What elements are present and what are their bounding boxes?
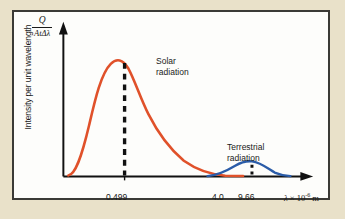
x-tick-label-crossover: 4.0 — [212, 192, 224, 202]
x-axis-unit: m — [312, 193, 319, 203]
x-axis-label: λ × 10-6 m — [284, 192, 319, 203]
x-axis-base: 10 — [297, 193, 306, 203]
x-tick-label-terrestrial-peak: 9.66 — [238, 192, 255, 202]
solar-radiation-curve — [68, 60, 243, 176]
terrestrial-annotation-line1: Terrestrial — [227, 142, 264, 153]
x-axis-exponent: -6 — [305, 192, 310, 198]
solar-annotation-line2: radiation — [156, 67, 189, 78]
x-axis-symbol: λ — [284, 193, 288, 203]
y-axis-arrowhead — [59, 22, 68, 35]
terrestrial-radiation-curve — [208, 161, 291, 176]
x-tick-label-solar-peak: 0.499 — [106, 192, 127, 202]
chart-canvas — [14, 12, 328, 198]
terrestrial-annotation-line2: radiation — [227, 153, 264, 164]
solar-annotation-line1: Solar — [156, 56, 189, 67]
x-axis-arrowhead — [300, 172, 313, 181]
figure-panel: Q AtΔλ Intensity per unit wavelength Sol… — [12, 10, 330, 200]
solar-radiation-annotation: Solar radiation — [156, 56, 189, 77]
x-axis-times: × — [290, 193, 295, 203]
terrestrial-radiation-annotation: Terrestrial radiation — [227, 142, 264, 163]
